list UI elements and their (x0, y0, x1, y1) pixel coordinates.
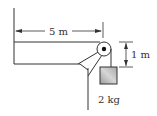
mass-block (100, 67, 117, 84)
pulley-axle (102, 47, 106, 51)
label-1m: 1 m (131, 49, 151, 60)
label-mass: 2 kg (98, 94, 121, 105)
arrowhead-down-icon (124, 60, 128, 66)
arrowhead-up-icon (124, 43, 128, 49)
arrowhead-left-icon (15, 29, 22, 33)
label-5m: 5 m (49, 26, 69, 37)
pulley-diagram: 5 m 2 kg 1 m (0, 0, 157, 116)
brace-inner (80, 64, 88, 70)
arrowhead-right-icon (95, 29, 102, 33)
